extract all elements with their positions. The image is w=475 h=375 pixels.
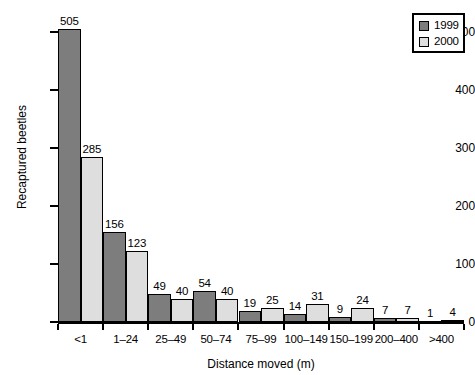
dark-gray-swatch-icon bbox=[419, 21, 429, 31]
bar-value-label: 505 bbox=[49, 15, 89, 27]
bar-1999-<1 bbox=[58, 29, 81, 322]
light-gray-swatch-icon bbox=[419, 37, 429, 47]
bar-value-label: 31 bbox=[297, 290, 337, 302]
x-tick-mark bbox=[57, 324, 59, 330]
bar-2000-25–49 bbox=[171, 299, 194, 322]
x-tick-mark bbox=[283, 324, 285, 330]
legend: 1999 2000 bbox=[412, 13, 465, 53]
bar-1999-75–99 bbox=[239, 311, 262, 322]
bar-1999-100–149 bbox=[284, 314, 307, 322]
bar-chart: Recaptured beetles 0100200300400500 5052… bbox=[0, 0, 475, 375]
x-tick-mark bbox=[328, 324, 330, 330]
bar-value-label: 40 bbox=[207, 285, 247, 297]
bar-value-label: 4 bbox=[433, 306, 473, 318]
x-tick-mark bbox=[102, 324, 104, 330]
bar-value-label: 285 bbox=[72, 143, 112, 155]
x-axis-line bbox=[58, 322, 464, 324]
x-tick-mark bbox=[192, 324, 194, 330]
legend-entry-1999: 1999 bbox=[419, 20, 459, 31]
x-tick-mark bbox=[418, 324, 420, 330]
x-tick-mark bbox=[463, 324, 465, 330]
bar-2000-<1 bbox=[81, 157, 104, 322]
bar-value-label: 156 bbox=[94, 218, 134, 230]
legend-entry-2000: 2000 bbox=[419, 36, 459, 47]
x-tick-label: >400 bbox=[411, 333, 471, 345]
legend-label-1999: 1999 bbox=[434, 20, 459, 31]
bar-value-label: 123 bbox=[117, 237, 157, 249]
plot-area: 50528515612349405440192514319247714 bbox=[0, 0, 475, 375]
x-tick-mark bbox=[373, 324, 375, 330]
x-tick-mark bbox=[147, 324, 149, 330]
x-axis-title: Distance moved (m) bbox=[58, 357, 464, 371]
legend-label-2000: 2000 bbox=[434, 36, 459, 47]
x-tick-mark bbox=[237, 324, 239, 330]
bar-1999-25–49 bbox=[148, 294, 171, 322]
